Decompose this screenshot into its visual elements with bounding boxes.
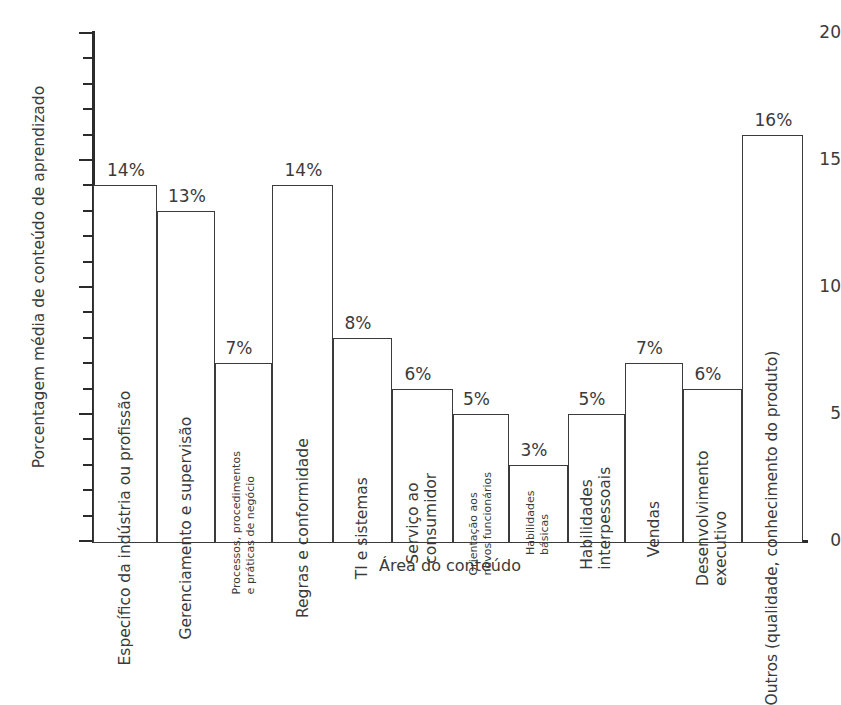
y-axis-title: Porcentagem média de conteúdo de aprendi… [30, 42, 48, 512]
bar-value-label: 5% [463, 391, 490, 408]
y-tick-minor [83, 337, 92, 339]
y-tick-major [79, 286, 92, 288]
y-tick-minor [83, 362, 92, 364]
y-tick-major [79, 540, 92, 542]
bar-value-label: 8% [345, 315, 372, 332]
bar[interactable] [392, 389, 453, 543]
bar[interactable] [683, 389, 742, 543]
y-tick-minor [83, 311, 92, 313]
x-axis-title: Área do conteúdo [92, 556, 808, 575]
bar[interactable] [93, 185, 157, 543]
bar[interactable] [157, 211, 215, 543]
bar-value-label: 16% [755, 112, 793, 129]
bar[interactable] [453, 414, 509, 543]
y-tick-minor [83, 438, 92, 440]
y-tick-label: 20 [769, 24, 841, 41]
y-tick-minor [83, 83, 92, 85]
y-tick-minor [83, 57, 92, 59]
y-tick-minor [83, 134, 92, 136]
bar-value-label: 14% [285, 162, 323, 179]
y-tick-minor [83, 388, 92, 390]
y-tick-minor [83, 489, 92, 491]
y-tick-major [79, 32, 92, 34]
bar[interactable] [272, 185, 333, 543]
bar-value-label: 14% [107, 162, 145, 179]
y-tick-minor [83, 184, 92, 186]
y-tick-minor [83, 515, 92, 517]
y-tick-minor [83, 235, 92, 237]
bar-value-label: 7% [226, 340, 253, 357]
bar[interactable] [215, 363, 272, 543]
bar[interactable] [568, 414, 625, 543]
bar[interactable] [333, 338, 392, 543]
bar-value-label: 13% [168, 188, 206, 205]
y-tick-minor [83, 210, 92, 212]
y-tick-major [79, 413, 92, 415]
bar-value-label: 7% [636, 340, 663, 357]
y-tick-major [79, 159, 92, 161]
bar-value-label: 6% [695, 366, 722, 383]
bar[interactable] [625, 363, 683, 543]
bar-value-label: 5% [579, 391, 606, 408]
y-tick-minor [83, 108, 92, 110]
y-tick-minor [83, 261, 92, 263]
bar-value-label: 3% [521, 442, 548, 459]
bar[interactable] [509, 465, 568, 543]
bar[interactable] [742, 135, 803, 543]
bar-value-label: 6% [405, 366, 432, 383]
y-tick-minor [83, 464, 92, 466]
